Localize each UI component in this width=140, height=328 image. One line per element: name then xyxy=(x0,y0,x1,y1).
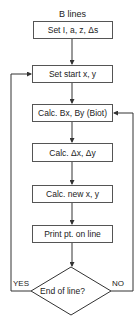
diagram-title: B lines xyxy=(0,9,140,19)
decision-label: End of line? xyxy=(40,286,85,296)
no-label: NO xyxy=(112,279,124,288)
yes-label: YES xyxy=(13,279,29,288)
set-params-box: Set I, a, z, Δs xyxy=(33,21,113,39)
calc-biot-box: Calc. Bx, By (Biot) xyxy=(32,104,113,122)
calc-new-xy-box: Calc. new x, y xyxy=(32,185,113,203)
print-point-box: Print pt. on line xyxy=(32,225,113,243)
calc-delta-box: Calc. Δx, Δy xyxy=(32,143,113,162)
set-start-box: Set start x, y xyxy=(32,65,113,83)
